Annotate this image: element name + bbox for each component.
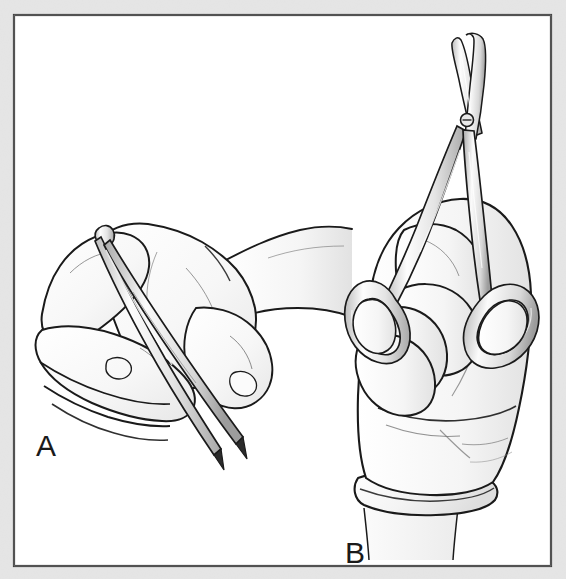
illustration-canvas: A <box>0 0 566 579</box>
panel-label-a: A <box>36 429 56 462</box>
panel-label-b: B <box>345 536 365 569</box>
figure-root: A <box>0 0 566 579</box>
